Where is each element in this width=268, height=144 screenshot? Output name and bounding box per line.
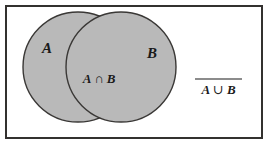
- intersection-operand-left: A: [82, 71, 92, 86]
- intersection-label-group: A∩B: [82, 71, 116, 86]
- set-a-label: A: [41, 40, 52, 56]
- intersection-label: A∩B: [82, 71, 116, 86]
- set-b-label: B: [146, 45, 157, 61]
- set-b-circle: [66, 12, 176, 122]
- union-complement-label: A∪B: [200, 82, 236, 97]
- venn-diagram-canvas: A B A∩B A∪B: [0, 0, 268, 144]
- union-operator-icon: ∪: [213, 82, 224, 97]
- intersection-operator-icon: ∩: [94, 71, 103, 86]
- venn-circles-group: [23, 12, 176, 122]
- union-complement-label-group: A∪B: [195, 79, 242, 97]
- venn-diagram-figure: A B A∩B A∪B: [0, 0, 268, 144]
- complement-operand-right: B: [226, 82, 236, 97]
- complement-operand-left: A: [200, 82, 210, 97]
- intersection-operand-right: B: [106, 71, 116, 86]
